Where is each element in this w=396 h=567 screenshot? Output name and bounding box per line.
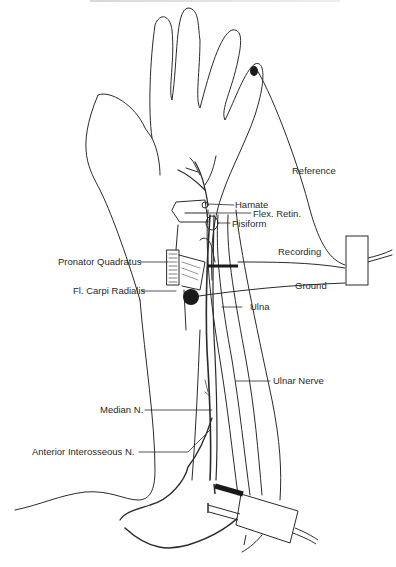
hand-forearm-drawing: [0, 0, 396, 567]
ground-electrode: [183, 289, 199, 305]
amplifier-box: [346, 236, 368, 285]
diagram-canvas: Reference Hamate Flex. Retin. Pisiform R…: [0, 0, 396, 567]
label-recording: Recording: [278, 247, 321, 257]
reference-electrode: [250, 66, 258, 76]
label-ulna: Ulna: [250, 302, 270, 312]
recording-lead: [238, 262, 345, 268]
label-fl-carpi-radialis: Fl. Carpi Radialis: [73, 286, 145, 296]
stimulator-box: [236, 494, 298, 543]
label-anterior-interosseous-n: Anterior Interosseous N.: [32, 447, 134, 457]
label-reference: Reference: [292, 166, 336, 176]
label-pisiform: Pisiform: [232, 219, 266, 229]
label-median-n: Median N.: [100, 405, 143, 415]
label-ground: Ground: [295, 281, 327, 291]
label-ulnar-nerve: Ulnar Nerve: [273, 376, 324, 386]
label-pronator-quadratus: Pronator Quadratus: [58, 257, 141, 267]
